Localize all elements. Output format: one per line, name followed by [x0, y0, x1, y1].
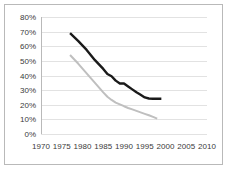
x-tick-label: 1970 [32, 142, 50, 151]
x-tick-label: 2000 [157, 142, 175, 151]
y-tick-label: 50% [20, 57, 36, 66]
x-tick-label: 1990 [115, 142, 133, 151]
x-tick-label: 1980 [74, 142, 92, 151]
y-tick-label: 80% [20, 13, 36, 22]
x-tick-label: 1995 [136, 142, 154, 151]
y-tick-label: 20% [20, 101, 36, 110]
x-tick-label: 1975 [53, 142, 71, 151]
x-tick-label: 2010 [198, 142, 216, 151]
y-tick-label: 60% [20, 42, 36, 51]
x-tick-label: 1985 [94, 142, 112, 151]
y-tick-label: 10% [20, 115, 36, 124]
line-chart: 0%10%20%30%40%50%60%70%80% 1970197519801… [5, 5, 224, 166]
y-tick-label: 70% [20, 28, 36, 37]
y-axis-tick-labels: 0%10%20%30%40%50%60%70%80% [20, 13, 36, 139]
x-axis-tick-labels: 197019751980198519901995200020052010 [32, 142, 216, 151]
data-line-series-light [70, 55, 157, 119]
data-line-series-dark [70, 33, 161, 99]
y-tick-label: 30% [20, 86, 36, 95]
chart-frame: 0%10%20%30%40%50%60%70%80% 1970197519801… [4, 4, 223, 165]
y-tick-label: 40% [20, 72, 36, 81]
y-tick-label: 0% [24, 130, 36, 139]
x-tick-label: 2005 [177, 142, 195, 151]
chart-plot-area: 0%10%20%30%40%50%60%70%80% 1970197519801… [5, 5, 224, 166]
gridlines-group [41, 18, 207, 135]
